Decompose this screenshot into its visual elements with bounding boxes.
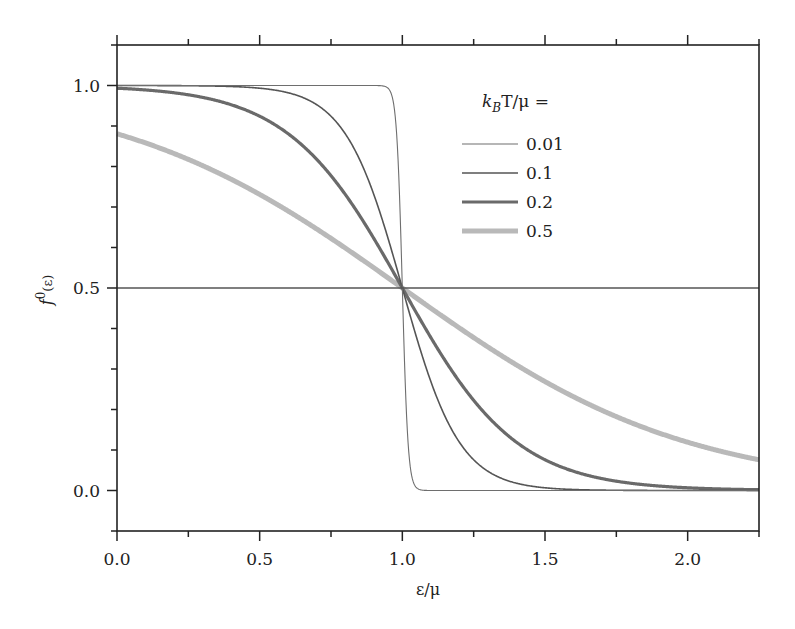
y-axis-label-arg: (ε) bbox=[40, 275, 55, 292]
legend-title-sub: B bbox=[491, 101, 501, 115]
x-tick-label: 1.0 bbox=[389, 549, 416, 569]
x-axis-label: ε/μ bbox=[416, 580, 440, 599]
x-tick-label: 2.0 bbox=[674, 549, 701, 569]
legend-label-0_1: 0.1 bbox=[526, 163, 553, 183]
x-tick-label: 1.5 bbox=[531, 549, 558, 569]
y-tick-label: 1.0 bbox=[73, 76, 100, 96]
y-tick-label: 0.5 bbox=[73, 278, 100, 298]
legend-title-k: k bbox=[482, 91, 492, 111]
x-tick-label: 0.5 bbox=[246, 549, 273, 569]
legend-title-rest: T/μ = bbox=[501, 91, 549, 111]
y-axis-label-sup: 0 bbox=[34, 292, 48, 300]
legend-label-0_2: 0.2 bbox=[526, 192, 553, 212]
legend: kBT/μ = 0.010.10.20.5 bbox=[462, 91, 564, 241]
y-tick-label: 0.0 bbox=[73, 481, 100, 501]
x-tick-label: 0.0 bbox=[103, 549, 130, 569]
series-line-0_2 bbox=[117, 88, 759, 490]
series-line-0_5 bbox=[117, 134, 759, 460]
fermi-dirac-chart: 0.00.51.01.52.00.00.51.0 ε/μ f0(ε) kBT/μ… bbox=[0, 0, 795, 629]
legend-title: kBT/μ = bbox=[482, 91, 549, 115]
legend-label-0_5: 0.5 bbox=[526, 221, 553, 241]
y-axis-label: f0(ε) bbox=[34, 275, 56, 306]
legend-items: 0.010.10.20.5 bbox=[462, 134, 564, 241]
legend-label-0_01: 0.01 bbox=[526, 134, 564, 154]
